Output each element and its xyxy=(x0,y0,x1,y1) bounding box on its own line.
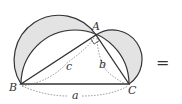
equals-sign: = xyxy=(156,53,169,72)
lune-diagram: A B C c b a = xyxy=(0,0,182,104)
label-a-point: A xyxy=(91,20,100,33)
label-side-a: a xyxy=(72,89,79,102)
label-b-point: B xyxy=(8,81,17,94)
label-side-c: c xyxy=(66,60,72,73)
label-c-point: C xyxy=(128,84,137,97)
label-side-b: b xyxy=(99,58,106,71)
